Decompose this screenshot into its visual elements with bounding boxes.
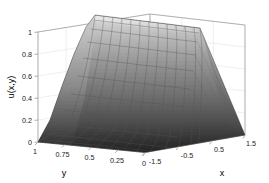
y-tick-label: 0.25 xyxy=(110,156,124,165)
y-axis-label: y xyxy=(62,168,67,178)
surface-plot-3d: 0 0.2 0.4 0.6 0.8 1 u(x,y) 1 0.75 0.5 0.… xyxy=(0,0,269,183)
z-axis-ticks xyxy=(35,32,39,142)
y-tick-label: 1 xyxy=(33,147,37,156)
surface-mesh xyxy=(38,15,245,153)
z-tick-label: 1 xyxy=(28,28,32,37)
x-tick-label: 0.5 xyxy=(214,145,224,154)
x-tick-label: -0.5 xyxy=(181,151,193,160)
z-tick-label: 0.4 xyxy=(22,94,32,103)
z-tick-label: 0 xyxy=(28,138,32,147)
z-tick-label: 0.8 xyxy=(22,50,32,59)
figure-root: 0 0.2 0.4 0.6 0.8 1 u(x,y) 1 0.75 0.5 0.… xyxy=(0,0,269,183)
y-tick-label: 0 xyxy=(142,159,146,168)
z-axis-tick-labels: 0 0.2 0.4 0.6 0.8 1 xyxy=(22,28,32,147)
y-tick-label: 0.75 xyxy=(56,150,70,159)
z-tick-label: 0.6 xyxy=(22,72,32,81)
y-tick-label: 0.5 xyxy=(85,153,95,162)
z-axis-label: u(x,y) xyxy=(6,76,16,99)
x-tick-label: -1.5 xyxy=(149,157,161,166)
z-tick-label: 0.2 xyxy=(22,116,32,125)
x-tick-label: 1.5 xyxy=(246,139,256,148)
x-axis-label: x xyxy=(220,168,225,178)
